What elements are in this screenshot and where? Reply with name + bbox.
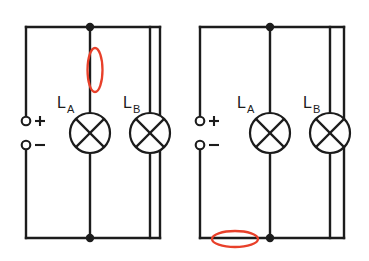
right-positive-sign-icon [209, 116, 219, 126]
right-negative-terminal-icon [196, 141, 205, 150]
left-lamp-b-label-subscript: B [133, 103, 140, 115]
right-bottom-node-dot [266, 234, 274, 242]
circuit-diagram-figure: L A L B [0, 0, 369, 261]
left-positive-sign-icon [35, 116, 45, 126]
left-lamp-a-label-subscript: A [67, 103, 75, 115]
left-lamp-b-label: L [123, 94, 132, 111]
left-lamp-a [70, 113, 110, 153]
left-lamp-b [130, 113, 170, 153]
right-positive-terminal-icon [196, 117, 205, 126]
right-circuit: L A L B [196, 23, 350, 247]
right-lamp-a-label: L [237, 94, 246, 111]
right-lamp-b-label: L [303, 94, 312, 111]
right-lamp-b-label-subscript: B [313, 103, 320, 115]
right-lamp-b [310, 113, 350, 153]
right-lamp-a [250, 113, 290, 153]
right-top-node-dot [266, 23, 274, 31]
left-negative-terminal-icon [22, 141, 31, 150]
left-bottom-node-dot [86, 234, 94, 242]
left-top-node-dot [86, 23, 94, 31]
left-circuit: L A L B [22, 23, 170, 242]
right-lamp-a-label-subscript: A [247, 103, 255, 115]
left-lamp-a-label: L [57, 94, 66, 111]
left-positive-terminal-icon [22, 117, 31, 126]
